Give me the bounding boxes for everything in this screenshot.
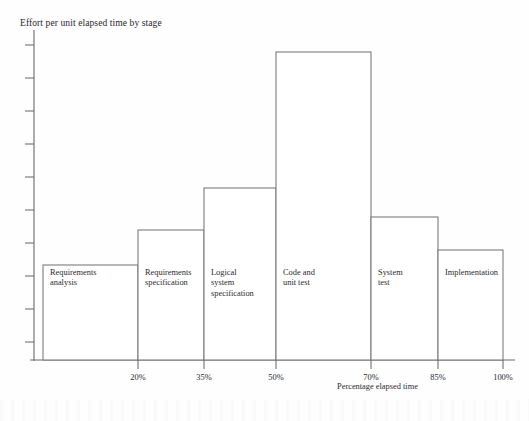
x-axis-tick-label: 50% [268,373,283,383]
y-axis-tick-group [25,45,34,342]
bar-group [43,52,503,360]
chart-plot-area [0,0,529,421]
bar-rect [371,217,438,360]
bar-rect [276,52,371,360]
figure-container: Effort per unit elapsed time by stage Re… [0,0,529,421]
x-axis-title: Percentage elapsed time [337,382,418,392]
bar-rect [43,265,138,360]
x-axis-tick-label: 35% [196,373,211,383]
bar-rect [438,250,503,360]
bar-rect [204,188,276,360]
x-axis-tick-group [138,360,503,369]
x-axis-tick-label: 20% [130,373,145,383]
x-axis-tick-label: 100% [493,373,513,383]
bar-rect [138,230,204,360]
x-axis-tick-label: 85% [430,373,445,383]
